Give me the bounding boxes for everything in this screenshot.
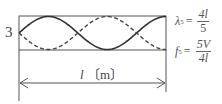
- length-label: l 〔m〕: [80, 64, 123, 83]
- formula-subscript: 5: [180, 18, 184, 26]
- formula-fraction: 5V 4l: [196, 38, 211, 65]
- formula-subscript: 5: [178, 48, 182, 56]
- length-unit: 〔m〕: [87, 67, 123, 82]
- fraction-numerator: 4l: [197, 8, 208, 22]
- formula-equals: =: [184, 44, 191, 59]
- problem-number: 3: [5, 24, 13, 41]
- fraction-denominator: 4l: [199, 52, 208, 65]
- fraction-denominator: 5: [200, 22, 206, 35]
- formula-equals: =: [186, 14, 193, 29]
- length-symbol: l: [80, 67, 84, 82]
- wavelength-formula: λ5 = 4l 5: [175, 8, 209, 35]
- fraction-numerator: 5V: [196, 38, 211, 52]
- frequency-formula: f5 = 5V 4l: [175, 38, 211, 65]
- formula-fraction: 4l 5: [197, 8, 208, 35]
